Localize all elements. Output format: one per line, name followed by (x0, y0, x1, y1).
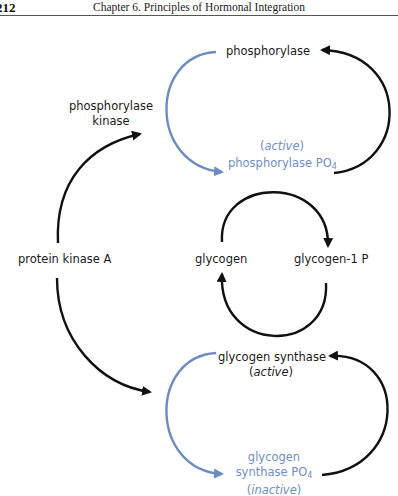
arrow-gs-to-gs-po4 (166, 353, 222, 474)
arrow-pka-to-glycogen-synthase (57, 278, 150, 392)
state-line: (active) (218, 365, 324, 380)
subscript: 4 (307, 471, 312, 480)
label-text: synthase PO (236, 465, 308, 479)
label-line: phosphorylase (68, 99, 154, 114)
node-glycogen-synthase: glycogen synthase (active) (218, 350, 324, 380)
arrow-gs-po4-to-gs (322, 356, 388, 475)
label-line: glycogen synthase (218, 350, 324, 365)
label-line: glycogen (234, 450, 314, 465)
node-protein-kinase-a: protein kinase A (18, 252, 111, 267)
state-active: active (265, 139, 300, 153)
phosphorylase-po4-name: phosphorylase PO (228, 156, 332, 170)
label-line: synthase PO4 (234, 465, 314, 483)
arrow-po4-to-phosphorylase (322, 50, 390, 173)
state-inactive: inactive (251, 483, 296, 496)
arrow-pka-to-phosphorylase-kinase (58, 134, 140, 243)
subscript: 4 (332, 162, 337, 171)
node-phosphorylase-kinase: phosphorylase kinase (68, 99, 154, 129)
node-phosphorylase: phosphorylase (226, 44, 310, 59)
node-glycogen-synthase-po4: glycogen synthase PO4 (inactive) (234, 450, 314, 496)
node-phosphorylase-po4-state: (active) (260, 139, 304, 154)
node-glycogen-1p: glycogen-1 P (294, 252, 368, 267)
state-line: (inactive) (234, 483, 314, 496)
node-phosphorylase-po4: phosphorylase PO4 (228, 156, 337, 174)
arrow-glycogen-to-g1p (222, 192, 328, 246)
arrow-g1p-to-glycogen (222, 274, 326, 336)
state-active: active (254, 365, 289, 379)
label-line: kinase (68, 114, 154, 129)
hormonal-integration-diagram (0, 0, 398, 496)
arrow-phosphorylase-to-po4 (166, 52, 222, 172)
node-glycogen: glycogen (195, 252, 247, 267)
